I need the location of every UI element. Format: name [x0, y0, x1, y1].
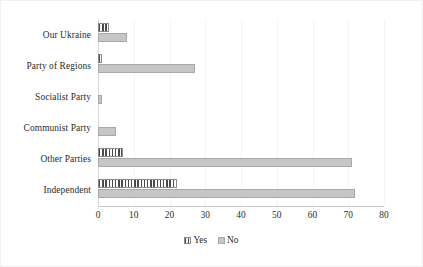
x-axis-line [98, 206, 384, 207]
x-tick-label: 50 [272, 210, 281, 220]
category-label: Socialist Party [35, 92, 91, 102]
x-tick-label: 60 [308, 210, 317, 220]
category-row: Our Ukraine [98, 19, 384, 50]
category-row: Other Parties [98, 144, 384, 175]
legend-label: No [227, 235, 238, 245]
x-tick-label: 40 [236, 210, 245, 220]
bar-no [98, 95, 102, 104]
bar-no [98, 127, 116, 136]
striped-swatch-icon [184, 237, 191, 244]
bar-no [98, 33, 127, 42]
category-label: Other Parties [40, 154, 91, 164]
bar-chart-figure: Our UkraineParty of RegionsSocialist Par… [0, 0, 423, 267]
bar-no [98, 158, 352, 167]
bar-no [98, 64, 195, 73]
plot-area: Our UkraineParty of RegionsSocialist Par… [98, 19, 384, 206]
bar-yes [98, 54, 102, 63]
x-tick-label: 20 [165, 210, 174, 220]
category-row: Socialist Party [98, 81, 384, 112]
category-row: Party of Regions [98, 50, 384, 81]
bar-yes [98, 148, 123, 157]
bar-yes [98, 179, 177, 188]
x-tick-label: 0 [96, 210, 101, 220]
x-tick-label: 70 [344, 210, 353, 220]
category-label: Our Ukraine [43, 30, 91, 40]
x-tick-label: 30 [201, 210, 210, 220]
chart-legend: YesNo [1, 235, 422, 245]
bar-yes [98, 23, 109, 32]
legend-label: Yes [193, 235, 207, 245]
category-row: Independent [98, 175, 384, 206]
x-tick-label: 80 [379, 210, 388, 220]
gridline-80 [384, 19, 385, 206]
legend-item-yes[interactable]: Yes [184, 235, 207, 245]
legend-item-no[interactable]: No [218, 235, 238, 245]
category-label: Party of Regions [26, 61, 91, 71]
category-label: Independent [44, 185, 91, 195]
category-label: Communist Party [24, 123, 91, 133]
category-row: Communist Party [98, 113, 384, 144]
x-tick-label: 10 [129, 210, 138, 220]
bar-no [98, 189, 355, 198]
solid-swatch-icon [218, 237, 225, 244]
